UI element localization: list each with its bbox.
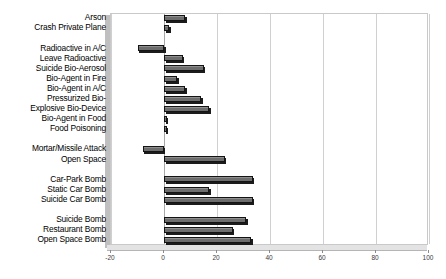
x-tick [428, 250, 429, 253]
bar[interactable] [164, 227, 233, 233]
bar[interactable] [164, 116, 167, 122]
bar[interactable] [164, 106, 209, 112]
x-tick-label: 0 [161, 254, 165, 261]
bar[interactable] [138, 45, 165, 51]
category-label: Bio-Agent in Food [42, 114, 107, 123]
bar[interactable] [164, 25, 169, 31]
category-label: Suicide Bio-Aerosol [36, 64, 106, 73]
category-label: Open Space [61, 155, 106, 164]
x-tick [375, 250, 376, 253]
x-tick [216, 250, 217, 253]
bar-chart: ArsonCrash Private PlaneRadioactive in A… [0, 0, 446, 279]
bar[interactable] [164, 76, 177, 82]
x-tick-label: -20 [105, 254, 114, 261]
x-tick-label: 20 [212, 254, 219, 261]
gridline--20 [111, 14, 112, 244]
category-label: Bio-Agent in Fire [46, 74, 106, 83]
gridline-40 [270, 14, 271, 244]
x-tick [322, 250, 323, 253]
category-label: Suicide Bomb [56, 215, 106, 224]
category-label: Leave Radioactive [40, 54, 106, 63]
category-label: Food Poisoning [50, 124, 106, 133]
category-label: Mortar/Missile Attack [32, 144, 106, 153]
x-axis: -20020406080100 [110, 250, 428, 270]
x-tick-label: 80 [371, 254, 378, 261]
category-label: Static Car Bomb [47, 185, 106, 194]
category-label: Open Space Bomb [37, 235, 106, 244]
category-label: Suicide Car Bomb [41, 195, 106, 204]
gridline-20 [217, 14, 218, 244]
bar[interactable] [143, 146, 164, 152]
bar[interactable] [164, 156, 225, 162]
x-tick-label: 100 [423, 254, 434, 261]
bar[interactable] [164, 176, 253, 182]
category-label: Bio-Agent in A/C [47, 84, 106, 93]
x-tick [110, 250, 111, 253]
bar[interactable] [164, 237, 251, 243]
bar[interactable] [164, 55, 183, 61]
gridline-100 [429, 14, 430, 244]
category-label: Car-Park Bomb [50, 175, 106, 184]
category-label: Arson [85, 13, 106, 22]
category-axis: ArsonCrash Private PlaneRadioactive in A… [0, 13, 108, 245]
bar[interactable] [164, 187, 209, 193]
bar[interactable] [164, 65, 204, 71]
bar[interactable] [164, 15, 185, 21]
category-label: Restaurant Bomb [43, 225, 106, 234]
bar[interactable] [164, 86, 185, 92]
bar[interactable] [164, 197, 253, 203]
bar[interactable] [164, 126, 167, 132]
category-label: Explosive Bio-Device [30, 104, 106, 113]
x-tick [163, 250, 164, 253]
gridline-60 [323, 14, 324, 244]
bar[interactable] [164, 217, 246, 223]
x-tick-label: 40 [265, 254, 272, 261]
plot-area [110, 13, 428, 245]
x-tick [269, 250, 270, 253]
x-tick-label: 60 [318, 254, 325, 261]
category-label: Crash Private Plane [34, 23, 106, 32]
category-label: Pressurized Bio- [47, 94, 106, 103]
bar[interactable] [164, 96, 201, 102]
category-label: Radioactive in A/C [40, 44, 106, 53]
gridline-80 [376, 14, 377, 244]
